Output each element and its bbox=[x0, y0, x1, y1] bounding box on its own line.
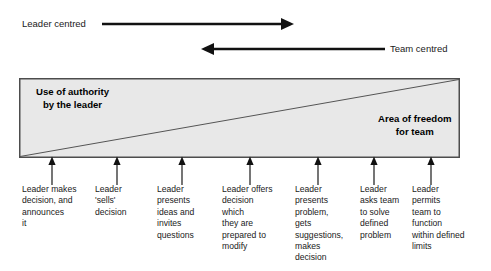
step-4-line-2: decision bbox=[222, 195, 254, 205]
step-5-line-2: presents bbox=[295, 195, 328, 205]
step-1-line-3: announces bbox=[22, 207, 64, 217]
step-3-line-4: invites bbox=[157, 218, 181, 228]
pointer-arrows-icon bbox=[0, 155, 491, 187]
pointer-arrow-5 bbox=[314, 157, 321, 186]
step-1-line-4: it bbox=[22, 218, 26, 228]
step-3-line-2: presents bbox=[157, 195, 190, 205]
step-4-line-4: they are bbox=[222, 218, 253, 228]
step-3-line-3: ideas and bbox=[157, 207, 194, 217]
step-5-line-1: Leader bbox=[295, 184, 322, 194]
step-description-7: Leaderpermitsteam tofunctionwithin defin… bbox=[412, 184, 484, 252]
step-6-line-2: asks team bbox=[360, 195, 399, 205]
step-7-line-6: limits bbox=[412, 241, 432, 251]
step-3-line-5: questions bbox=[157, 230, 194, 240]
use-of-authority-line2: by the leader bbox=[43, 99, 102, 110]
step-1-line-1: Leader makes bbox=[22, 184, 76, 194]
area-of-freedom-label: Area of freedom for team bbox=[378, 113, 452, 138]
step-pointers bbox=[0, 155, 491, 187]
right-arrow-icon bbox=[0, 16, 491, 32]
step-4-line-1: Leader offers bbox=[222, 184, 272, 194]
step-1-line-2: decision, and bbox=[22, 195, 73, 205]
step-6-line-4: defined bbox=[360, 218, 388, 228]
pointer-arrow-6 bbox=[370, 157, 377, 186]
pointer-arrow-7 bbox=[427, 157, 434, 186]
pointer-arrow-2 bbox=[113, 157, 120, 186]
step-7-line-4: function bbox=[412, 218, 442, 228]
step-6-line-5: problem bbox=[360, 230, 391, 240]
step-7-line-5: within defined bbox=[412, 230, 465, 240]
area-of-freedom-line1: Area of freedom bbox=[378, 113, 452, 124]
pointer-arrow-4 bbox=[246, 157, 253, 186]
area-of-freedom-line2: for team bbox=[396, 126, 434, 137]
step-5-line-3: problem, bbox=[295, 207, 328, 217]
step-description-6: Leaderasks teamto solvedefinedproblem bbox=[360, 184, 410, 241]
step-2-line-3: decision bbox=[95, 207, 127, 217]
step-5-line-6: makes bbox=[295, 241, 320, 251]
step-5-line-5: suggestions, bbox=[295, 230, 343, 240]
step-3-line-1: Leader bbox=[157, 184, 184, 194]
use-of-authority-label: Use of authority by the leader bbox=[36, 86, 109, 111]
step-4-line-3: which bbox=[222, 207, 244, 217]
step-descriptions: Leader makesdecision, andannouncesitLead… bbox=[0, 184, 491, 271]
step-description-3: Leaderpresentsideas andinvitesquestions bbox=[157, 184, 219, 241]
step-6-line-1: Leader bbox=[360, 184, 387, 194]
leader-centred-axis: Leader centred bbox=[0, 16, 491, 32]
step-description-1: Leader makesdecision, andannouncesit bbox=[22, 184, 94, 230]
step-7-line-1: Leader bbox=[412, 184, 439, 194]
step-5-line-4: gets bbox=[295, 218, 311, 228]
left-arrow-icon bbox=[0, 41, 491, 57]
step-description-2: Leader'sells'decision bbox=[95, 184, 153, 218]
step-6-line-3: to solve bbox=[360, 207, 390, 217]
step-7-line-3: team to bbox=[412, 207, 441, 217]
step-description-4: Leader offersdecisionwhichthey areprepar… bbox=[222, 184, 292, 252]
use-of-authority-line1: Use of authority bbox=[36, 86, 109, 97]
team-centred-axis: Team centred bbox=[0, 41, 491, 57]
step-4-line-6: modify bbox=[222, 241, 247, 251]
step-4-line-5: prepared to bbox=[222, 230, 266, 240]
step-5-line-7: decision bbox=[295, 252, 327, 262]
pointer-arrow-1 bbox=[48, 157, 55, 186]
step-2-line-1: Leader bbox=[95, 184, 122, 194]
step-2-line-2: 'sells' bbox=[95, 195, 115, 205]
step-7-line-2: permits bbox=[412, 195, 440, 205]
step-description-5: Leaderpresentsproblem,getssuggestions,ma… bbox=[295, 184, 357, 264]
pointer-arrow-3 bbox=[178, 157, 185, 186]
